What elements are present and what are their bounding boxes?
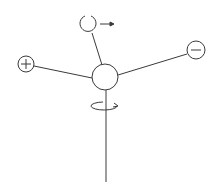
bond-negative	[118, 54, 187, 75]
center-atom	[92, 64, 118, 90]
positive-atom	[18, 56, 34, 72]
top-atom	[80, 16, 96, 31]
diagram-canvas: + −	[0, 0, 217, 186]
bond-top	[92, 33, 102, 65]
translation-arrow-icon	[100, 22, 114, 26]
bond-positive	[34, 66, 92, 78]
diagram-svg	[0, 0, 217, 186]
rotation-arrow-icon	[91, 102, 118, 110]
negative-atom	[187, 41, 205, 59]
